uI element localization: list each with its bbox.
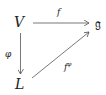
label-phi: φ [5,50,11,59]
commutative-diagram: V 𝔤 L f φ fφ [0,0,106,95]
label-f-phi: fφ [64,61,72,72]
arrow-f-phi [32,32,89,78]
node-l: L [15,77,24,91]
node-v: V [14,15,24,29]
node-g: 𝔤 [95,17,101,30]
label-f: f [57,8,60,17]
label-f-phi-sup: φ [67,60,71,67]
